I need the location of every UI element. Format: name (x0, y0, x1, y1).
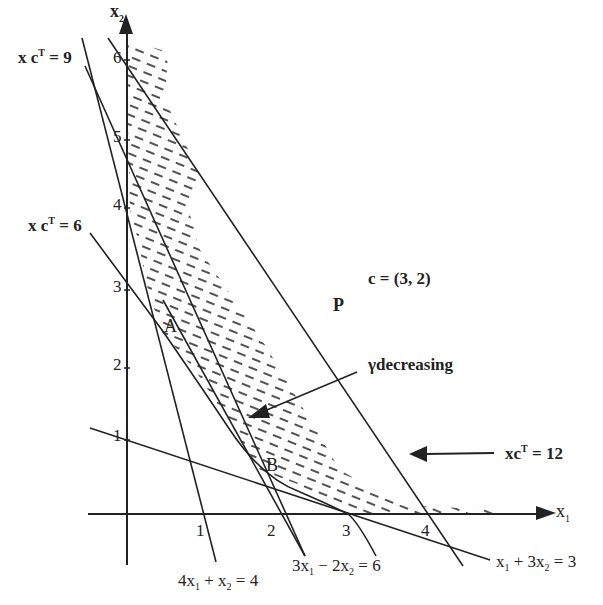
xcT12-arrow (409, 446, 494, 462)
point-A-label: A (164, 317, 177, 335)
diagram-canvas (0, 0, 603, 605)
x-tick-3: 3 (342, 522, 351, 539)
point-B-label: B (266, 456, 278, 474)
label-x1-plus-3x2-eq-3: x1 + 3x2 = 3 (496, 553, 576, 573)
y-axis-label: x2 (110, 2, 124, 24)
hatched-region (128, 40, 500, 514)
label-4x1-plus-x2-eq-4: 4x1 + x2 = 4 (178, 572, 258, 592)
label-xcT-12: xcT = 12 (505, 444, 563, 462)
point-P-label: P (333, 296, 344, 314)
label-xcT-9: x cT = 9 (18, 48, 72, 66)
c-vector-label: c = (3, 2) (368, 270, 431, 287)
x-tick-2: 2 (267, 522, 276, 539)
y-tick-4: 4 (113, 196, 122, 213)
y-tick-1: 1 (113, 427, 122, 444)
y-tick-5: 5 (113, 128, 122, 145)
y-tick-6: 6 (113, 49, 122, 66)
y-tick-3: 3 (113, 278, 122, 295)
gamma-decreasing-label: γdecreasing (368, 356, 453, 373)
lp-diagram: x2 x1 1 2 3 4 1 2 3 4 5 6 x cT = 9 x cT … (0, 0, 603, 605)
label-3x1-minus-2x2-eq-6: 3x1 − 2x2 = 6 (292, 557, 381, 577)
y-tick-2: 2 (113, 356, 122, 373)
x-tick-1: 1 (196, 522, 205, 539)
label-xcT-6: x cT = 6 (28, 216, 82, 234)
x-axis-label: x1 (556, 502, 570, 524)
x-axis (88, 506, 556, 520)
x-tick-4: 4 (421, 522, 430, 539)
